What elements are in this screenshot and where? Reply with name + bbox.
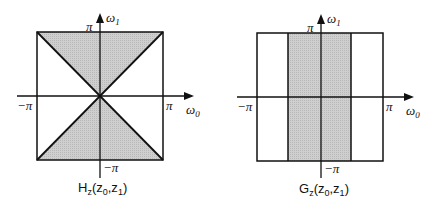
panel-caption: Hz(z0,z1)	[78, 180, 127, 197]
x-max-label: π	[386, 99, 393, 114]
omega0-arrow-icon	[184, 92, 194, 100]
figure-canvas: π ω1 −π π ω0 −π Hz(z0,z1) π ω1 −π π ω0 −…	[0, 0, 432, 207]
x-min-label: −π	[237, 99, 253, 114]
y-min-label: −π	[103, 160, 119, 175]
omega1-arrow-icon	[317, 14, 325, 24]
y-max-label: π	[86, 19, 93, 34]
y-min-label: −π	[324, 161, 340, 176]
omega1-arrow-icon	[96, 13, 104, 23]
panel-g-z: π ω1 −π π ω0 −π Gz(z0,z1)	[237, 11, 420, 198]
x-axis-label: ω0	[406, 103, 420, 120]
x-axis-label: ω0	[186, 102, 200, 119]
panel-caption: Gz(z0,z1)	[299, 181, 349, 198]
y-max-label: π	[307, 20, 314, 35]
x-min-label: −π	[17, 98, 33, 113]
x-max-label: π	[166, 98, 173, 113]
y-axis-label: ω1	[106, 10, 120, 27]
panel-h-z: π ω1 −π π ω0 −π Hz(z0,z1)	[17, 10, 200, 197]
omega0-arrow-icon	[404, 93, 414, 101]
y-axis-label: ω1	[327, 11, 341, 28]
